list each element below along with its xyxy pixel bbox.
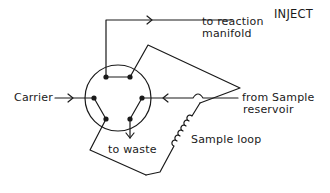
port-dot-right	[139, 95, 144, 100]
port-dot-top-right	[127, 74, 132, 79]
port-dot-bottom-left	[103, 116, 108, 121]
diagram-title: INJECT	[274, 8, 313, 20]
valve-channel-left	[94, 98, 106, 119]
label-sample-loop: Sample loop	[191, 134, 261, 146]
label-reservoir: reservoir	[243, 104, 294, 116]
port-dot-top-left	[103, 74, 108, 79]
label-carrier: Carrier	[14, 92, 53, 104]
label-to-waste: to waste	[108, 144, 157, 156]
sample-loop-upper	[130, 45, 240, 103]
label-manifold: manifold	[202, 28, 252, 40]
port-dot-left	[91, 95, 96, 100]
port-dot-bottom-right	[127, 116, 132, 121]
valve-channel-right	[130, 98, 142, 119]
